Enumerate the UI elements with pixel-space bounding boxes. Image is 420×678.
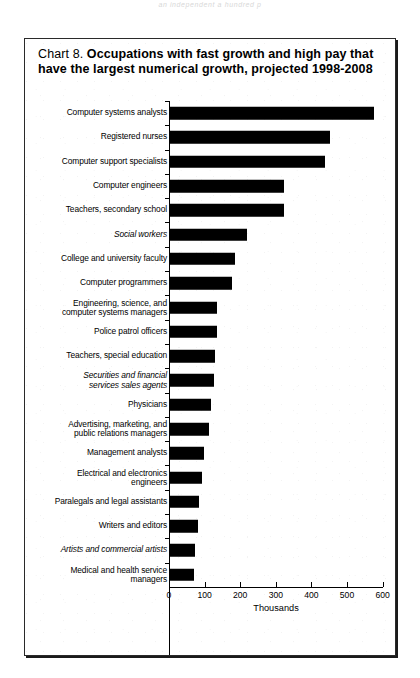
bar xyxy=(169,180,284,193)
bar-rows: Computer systems analystsRegistered nurs… xyxy=(25,101,396,587)
category-tick xyxy=(165,490,169,491)
bar-category-label: Computer programmers xyxy=(27,279,167,288)
bar xyxy=(169,253,235,266)
category-tick xyxy=(165,441,169,442)
x-tick-label: 400 xyxy=(304,590,318,600)
category-tick xyxy=(165,125,169,126)
bar xyxy=(169,520,198,533)
bar xyxy=(169,350,215,363)
bar-row: Writers and editors xyxy=(25,514,396,538)
bar-row: Electrical and electronics engineers xyxy=(25,465,396,489)
x-tick-label: 100 xyxy=(197,590,211,600)
x-tick-label: 300 xyxy=(269,590,283,600)
bar xyxy=(169,569,194,582)
bar-category-label: Advertising, marketing, and public relat… xyxy=(27,420,167,439)
bar-row: Teachers, special education xyxy=(25,344,396,368)
bar-category-label: Electrical and electronics engineers xyxy=(27,468,167,487)
bar-category-label: Securities and financial services sales … xyxy=(27,371,167,390)
bar-category-label: Writers and editors xyxy=(27,521,167,530)
category-tick xyxy=(165,320,169,321)
bar-row: Management analysts xyxy=(25,441,396,465)
category-tick xyxy=(165,514,169,515)
bar xyxy=(169,155,325,168)
category-tick xyxy=(165,271,169,272)
bar-category-label: Paralegals and legal assistants xyxy=(27,497,167,506)
x-tick-label: 200 xyxy=(233,590,247,600)
bar-row: Social workers xyxy=(25,222,396,246)
chart-figure-box: Chart 8. Occupations with fast growth an… xyxy=(24,38,396,656)
bar xyxy=(169,107,374,120)
category-tick xyxy=(165,344,169,345)
bar-row: College and university faculty xyxy=(25,247,396,271)
bar-category-label: College and university faculty xyxy=(27,254,167,263)
bar-category-label: Management analysts xyxy=(27,449,167,458)
bar-category-label: Computer systems analysts xyxy=(27,108,167,117)
page-running-head: an independent a hundred p xyxy=(0,1,420,13)
bar xyxy=(169,471,202,484)
bar-category-label: Police patrol officers xyxy=(27,327,167,336)
bar xyxy=(169,544,195,557)
bar-category-label: Artists and commercial artists xyxy=(27,546,167,555)
x-axis-title: Thousands xyxy=(169,603,383,613)
x-axis-line xyxy=(169,587,383,588)
bar-row: Police patrol officers xyxy=(25,320,396,344)
bar xyxy=(169,301,217,314)
bar-category-label: Computer support specialists xyxy=(27,157,167,166)
bar-row: Computer systems analysts xyxy=(25,101,396,125)
bar-category-label: Medical and health service managers xyxy=(27,565,167,584)
category-tick xyxy=(165,198,169,199)
bar-row: Artists and commercial artists xyxy=(25,538,396,562)
bar xyxy=(169,228,247,241)
bar-row: Computer programmers xyxy=(25,271,396,295)
bar-category-label: Computer engineers xyxy=(27,181,167,190)
bar-row: Advertising, marketing, and public relat… xyxy=(25,417,396,441)
bar-category-label: Teachers, secondary school xyxy=(27,206,167,215)
bar-category-label: Teachers, special education xyxy=(27,351,167,360)
category-tick xyxy=(165,150,169,151)
bar-row: Computer support specialists xyxy=(25,150,396,174)
category-tick xyxy=(165,538,169,539)
bar xyxy=(169,447,204,460)
bar-category-label: Physicians xyxy=(27,400,167,409)
category-tick xyxy=(165,174,169,175)
bar-row: Computer engineers xyxy=(25,174,396,198)
bar xyxy=(169,204,284,217)
bar xyxy=(169,398,211,411)
bar-category-label: Registered nurses xyxy=(27,133,167,142)
bar xyxy=(169,423,209,436)
x-tick-label: 500 xyxy=(340,590,354,600)
bar-row: Physicians xyxy=(25,393,396,417)
bar xyxy=(169,131,330,144)
bar xyxy=(169,277,232,290)
bar xyxy=(169,326,217,339)
bar-category-label: Engineering, science, and computer syste… xyxy=(27,298,167,317)
chart-number: Chart 8. xyxy=(38,47,83,61)
bar-row: Medical and health service managers xyxy=(25,563,396,587)
chart-title: Chart 8. Occupations with fast growth an… xyxy=(38,47,378,76)
chart-title-text: Occupations with fast growth and high pa… xyxy=(38,47,373,76)
plot-area: Computer systems analystsRegistered nurs… xyxy=(25,101,396,656)
bar-row: Paralegals and legal assistants xyxy=(25,490,396,514)
category-tick xyxy=(165,101,169,102)
bar xyxy=(169,496,199,509)
bar-row: Registered nurses xyxy=(25,125,396,149)
bar-category-label: Social workers xyxy=(27,230,167,239)
x-tick-label: 600 xyxy=(375,590,389,600)
category-tick xyxy=(165,393,169,394)
bar xyxy=(169,374,214,387)
category-tick xyxy=(165,247,169,248)
bar-row: Teachers, secondary school xyxy=(25,198,396,222)
bar-row: Engineering, science, and computer syste… xyxy=(25,295,396,319)
category-tick xyxy=(165,222,169,223)
bar-row: Securities and financial services sales … xyxy=(25,368,396,392)
